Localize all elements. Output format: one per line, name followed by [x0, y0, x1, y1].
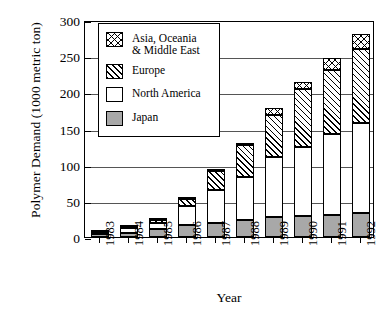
- x-axis-title: Year: [84, 290, 374, 306]
- x-tick-label-1992: 1992: [365, 200, 378, 246]
- bar-segment-asia-1990: [294, 82, 312, 89]
- x-tick-label-1984: 1984: [133, 200, 146, 246]
- y-tick-label-50: 50: [40, 196, 80, 210]
- x-tick-1992: [360, 238, 361, 243]
- x-tick-1985: [157, 238, 158, 243]
- x-tick-1987: [215, 238, 216, 243]
- chart-figure: Polymer Demand (1000 metric ton) 300 250…: [0, 0, 388, 313]
- legend: Asia, Oceania & Middle EastEuropeNorth A…: [98, 23, 220, 137]
- legend-label-2: North America: [132, 87, 201, 100]
- bar-segment-asia-1991: [323, 58, 341, 70]
- y-tick-label-250: 250: [40, 51, 80, 65]
- bar-segment-asia-1988: [236, 143, 254, 145]
- x-tick-label-1983: 1983: [104, 200, 117, 246]
- legend-swatch-europe: [106, 64, 123, 79]
- legend-swatch-north-america: [106, 87, 123, 102]
- legend-label-1: Europe: [132, 64, 165, 77]
- legend-label-0: Asia, Oceania & Middle East: [132, 32, 200, 56]
- y-tick-label-0: 0: [40, 232, 80, 246]
- bar-segment-asia-1989: [265, 108, 283, 115]
- y-tick-label-100: 100: [40, 160, 80, 174]
- x-tick-label-1990: 1990: [307, 200, 320, 246]
- bar-segment-europe-1989: [265, 115, 283, 157]
- legend-label-3: Japan: [132, 111, 158, 124]
- y-tick-0: [85, 239, 91, 240]
- x-tick-label-1991: 1991: [336, 200, 349, 246]
- bar-segment-europe-1990: [294, 89, 312, 147]
- bar-segment-europe-1988: [236, 145, 254, 177]
- legend-item-0[interactable]: Asia, Oceania & Middle East: [106, 32, 200, 56]
- legend-swatch-japan: [106, 111, 123, 126]
- x-tick-1986: [186, 238, 187, 243]
- legend-item-1[interactable]: Europe: [106, 64, 165, 79]
- y-tick-label-150: 150: [40, 124, 80, 138]
- bar-segment-asia-1992: [352, 34, 370, 48]
- legend-swatch-asia: [106, 32, 123, 47]
- legend-item-2[interactable]: North America: [106, 87, 201, 102]
- x-tick-label-1987: 1987: [220, 200, 233, 246]
- x-tick-1991: [331, 238, 332, 243]
- x-tick-1984: [128, 238, 129, 243]
- bar-segment-asia-1986: [178, 197, 196, 199]
- bar-segment-europe-1987: [207, 171, 225, 190]
- x-tick-1989: [273, 238, 274, 243]
- x-tick-1988: [244, 238, 245, 243]
- bar-segment-asia-1987: [207, 169, 225, 171]
- x-tick-label-1989: 1989: [278, 200, 291, 246]
- y-tick-label-200: 200: [40, 87, 80, 101]
- x-tick-1983: [99, 238, 100, 243]
- legend-item-3[interactable]: Japan: [106, 111, 158, 126]
- x-tick-label-1988: 1988: [249, 200, 262, 246]
- x-tick-1990: [302, 238, 303, 243]
- x-tick-label-1985: 1985: [162, 200, 175, 246]
- bar-segment-europe-1991: [323, 70, 341, 134]
- x-tick-label-1986: 1986: [191, 200, 204, 246]
- bar-segment-europe-1992: [352, 49, 370, 123]
- y-tick-label-300: 300: [40, 15, 80, 29]
